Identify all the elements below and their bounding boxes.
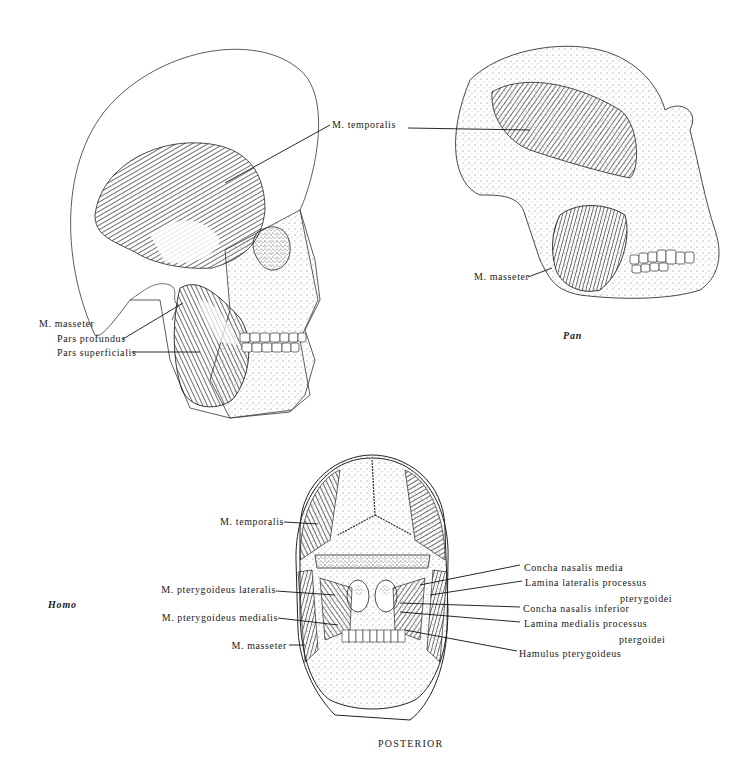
homo-lateral-skull [71,49,320,418]
label-concha-nasalis-inferior: Concha nasalis inferior [523,603,630,614]
species-label-pan: Pan [563,330,582,341]
label-concha-nasalis-media: Concha nasalis media [524,562,623,573]
label-lamina-medialis-line1: Lamina medialis processus [524,618,647,629]
pan-lateral-skull [456,46,720,298]
label-homo-temporalis: M. temporalis [332,119,396,130]
label-lamina-lateralis-line1: Lamina lateralis processus [525,577,647,588]
label-posterior-temporalis: M. temporalis [200,516,284,527]
label-pars-profundus: Pars profundus [57,333,126,344]
species-label-homo: Homo [48,599,77,610]
anatomy-plate [0,0,738,780]
label-pan-masseter: M. masseter [474,271,529,282]
view-label-posterior: POSTERIOR [378,738,443,749]
label-pterygoideus-medialis: M. pterygoideus medialis [150,612,278,623]
homo-posterior-skull [296,455,448,720]
label-lamina-medialis-line2: ptergoidei [619,634,665,645]
label-hamulus-pterygoideus: Hamulus pterygoideus [519,648,621,659]
label-pterygoideus-lateralis: M. pterygoideus lateralis [150,584,276,595]
label-pars-superficialis: Pars superficialis [57,347,136,358]
label-posterior-masseter: M. masseter [200,640,287,651]
label-homo-masseter: M. masseter [39,318,94,329]
